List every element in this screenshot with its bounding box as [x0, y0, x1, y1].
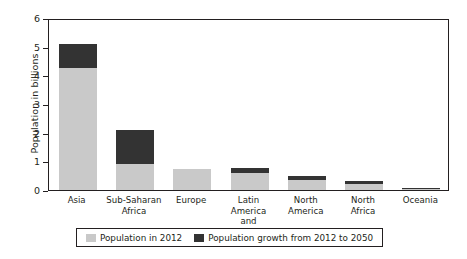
bar-segment-growth	[231, 168, 269, 173]
y-tick-label: 2	[22, 129, 40, 139]
x-category-label: Oceania	[392, 195, 449, 206]
y-tick-label: 4	[22, 71, 40, 81]
x-category-label: North America	[277, 195, 334, 216]
legend-label: Population in 2012	[100, 233, 182, 243]
bar-group	[59, 18, 97, 190]
bar-segment-growth	[402, 188, 440, 189]
bar-segment-population-2012	[116, 164, 154, 190]
y-tick-label: 3	[22, 100, 40, 110]
legend-entry: Population in 2012	[86, 233, 182, 243]
bar-segment-growth	[288, 176, 326, 180]
bar-segment-population-2012	[288, 180, 326, 190]
bar-group	[231, 18, 269, 190]
x-category-label: Asia	[48, 195, 105, 206]
bar-segment-growth	[345, 181, 383, 184]
bar-segment-population-2012	[402, 189, 440, 190]
legend-swatch-growth	[194, 234, 204, 242]
bar-group	[402, 18, 440, 190]
bar-segment-growth	[59, 44, 97, 68]
bar-segment-population-2012	[173, 169, 211, 190]
y-tick-label: 0	[22, 186, 40, 196]
chart-figure: Population in billions 0123456 AsiaSub-S…	[0, 0, 467, 259]
bar-segment-growth	[116, 130, 154, 164]
bar-segment-population-2012	[345, 184, 383, 190]
bar-group	[345, 18, 383, 190]
x-category-label: Sub-Saharan Africa	[105, 195, 162, 216]
x-category-label: Europe	[163, 195, 220, 206]
bar-group	[173, 18, 211, 190]
bar-group	[116, 18, 154, 190]
y-tick-label: 1	[22, 157, 40, 167]
y-tick-label: 6	[22, 14, 40, 24]
bar-series-container	[49, 20, 448, 190]
x-category-label: North Africa	[334, 195, 391, 216]
legend-label: Population growth from 2012 to 2050	[208, 233, 373, 243]
legend-swatch-population-2012	[86, 234, 96, 242]
bar-segment-population-2012	[231, 173, 269, 190]
legend-entry: Population growth from 2012 to 2050	[194, 233, 373, 243]
bar-group	[288, 18, 326, 190]
plot-area	[48, 19, 449, 191]
chart-legend: Population in 2012Population growth from…	[76, 228, 383, 247]
bar-segment-population-2012	[59, 68, 97, 190]
y-tick-mark	[43, 191, 48, 192]
y-tick-label: 5	[22, 43, 40, 53]
